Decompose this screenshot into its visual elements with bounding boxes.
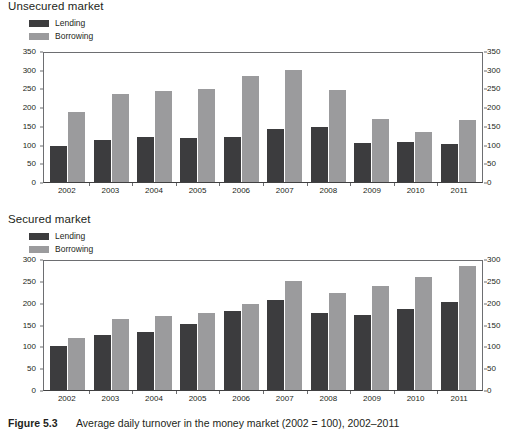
y-tick-label-right-300: 300 bbox=[487, 67, 507, 75]
bar-lending-2011 bbox=[441, 144, 458, 182]
bar-borrowing-2002 bbox=[68, 338, 85, 390]
legend-label-lending: Lending bbox=[55, 19, 85, 28]
x-tick-mark bbox=[176, 183, 177, 186]
y-tick-label-left-350: 350 bbox=[2, 48, 36, 56]
legend-label-borrowing: Borrowing bbox=[55, 245, 93, 254]
x-tick-mark bbox=[350, 391, 351, 394]
x-tick-label-2004: 2004 bbox=[132, 186, 176, 196]
bar-borrowing-2011 bbox=[459, 266, 476, 390]
x-tick-label-2011: 2011 bbox=[437, 394, 481, 404]
legend-unsecured: Lending Borrowing bbox=[29, 18, 93, 44]
y-tick-mark bbox=[40, 108, 43, 109]
x-tick-label-2011: 2011 bbox=[437, 186, 481, 196]
y-tick-mark bbox=[484, 70, 487, 71]
y-tick-label-right-150: 150 bbox=[487, 322, 507, 330]
y-tick-mark bbox=[484, 145, 487, 146]
x-tick-mark bbox=[219, 183, 220, 186]
y-tick-mark bbox=[40, 89, 43, 90]
x-axis-secured: 2002200320042005200620072008200920102011 bbox=[43, 394, 483, 404]
y-axis-left-secured: 050100150200250300 bbox=[2, 260, 36, 391]
plot-area-unsecured bbox=[43, 52, 483, 183]
y-tick-label-left-0: 0 bbox=[2, 387, 36, 395]
bar-lending-2008 bbox=[311, 313, 328, 390]
bar-group-2011 bbox=[437, 261, 480, 390]
y-tick-label-left-150: 150 bbox=[2, 322, 36, 330]
y-tick-mark bbox=[40, 303, 43, 304]
bar-group-2008 bbox=[306, 261, 349, 390]
y-tick-mark bbox=[40, 164, 43, 165]
y-tick-label-right-150: 150 bbox=[487, 123, 507, 131]
x-tick-mark bbox=[89, 391, 90, 394]
y-tick-label-right-100: 100 bbox=[487, 142, 507, 150]
figure-caption-text: Average daily turnover in the money mark… bbox=[76, 417, 399, 430]
y-tick-mark bbox=[484, 126, 487, 127]
x-tick-mark bbox=[394, 391, 395, 394]
y-tick-mark bbox=[484, 369, 487, 370]
bar-lending-2005 bbox=[180, 324, 197, 390]
bar-lending-2010 bbox=[397, 142, 414, 182]
x-tick-label-2002: 2002 bbox=[45, 394, 89, 404]
bar-group-2009 bbox=[350, 53, 393, 182]
y-tick-mark bbox=[40, 126, 43, 127]
bar-group-2005 bbox=[176, 53, 219, 182]
bar-group-2004 bbox=[133, 261, 176, 390]
y-tick-mark bbox=[40, 52, 43, 53]
y-tick-label-left-300: 300 bbox=[2, 67, 36, 75]
bar-borrowing-2007 bbox=[285, 70, 302, 182]
y-tick-label-right-350: 350 bbox=[487, 48, 507, 56]
bar-group-2007 bbox=[263, 261, 306, 390]
bar-group-2003 bbox=[89, 53, 132, 182]
panel-title-secured: Secured market bbox=[8, 213, 91, 225]
x-tick-label-2003: 2003 bbox=[89, 186, 133, 196]
bar-lending-2010 bbox=[397, 309, 414, 390]
bar-lending-2006 bbox=[224, 137, 241, 182]
x-tick-label-2007: 2007 bbox=[263, 394, 307, 404]
legend-swatch-borrowing bbox=[29, 246, 49, 253]
bar-lending-2006 bbox=[224, 311, 241, 390]
x-tick-label-2009: 2009 bbox=[350, 186, 394, 196]
y-tick-label-left-150: 150 bbox=[2, 123, 36, 131]
bar-lending-2002 bbox=[50, 346, 67, 390]
bar-group-2006 bbox=[220, 261, 263, 390]
y-tick-label-left-200: 200 bbox=[2, 300, 36, 308]
x-tick-mark bbox=[176, 391, 177, 394]
x-tick-mark bbox=[437, 183, 438, 186]
x-tick-mark bbox=[219, 391, 220, 394]
y-tick-mark bbox=[484, 89, 487, 90]
y-tick-label-right-250: 250 bbox=[487, 278, 507, 286]
x-tick-label-2003: 2003 bbox=[89, 394, 133, 404]
y-tick-mark bbox=[40, 183, 43, 184]
y-tick-mark bbox=[484, 164, 487, 165]
y-tick-label-right-100: 100 bbox=[487, 343, 507, 351]
bar-group-2004 bbox=[133, 53, 176, 182]
y-tick-label-right-0: 0 bbox=[487, 179, 507, 187]
y-tick-mark bbox=[40, 369, 43, 370]
legend-item-borrowing: Borrowing bbox=[29, 31, 93, 42]
figure-number: Figure 5.3 bbox=[8, 417, 76, 430]
y-tick-mark bbox=[484, 281, 487, 282]
bar-borrowing-2009 bbox=[372, 119, 389, 182]
x-tick-label-2008: 2008 bbox=[307, 186, 351, 196]
y-tick-mark bbox=[484, 108, 487, 109]
bar-lending-2002 bbox=[50, 146, 67, 182]
bar-lending-2009 bbox=[354, 315, 371, 390]
x-tick-mark bbox=[307, 183, 308, 186]
x-tick-label-2007: 2007 bbox=[263, 186, 307, 196]
y-tick-mark bbox=[40, 281, 43, 282]
x-tick-label-2005: 2005 bbox=[176, 394, 220, 404]
legend-label-lending: Lending bbox=[55, 232, 85, 241]
x-tick-label-2006: 2006 bbox=[219, 186, 263, 196]
panel-title-unsecured: Unsecured market bbox=[8, 0, 104, 12]
bar-group-2009 bbox=[350, 261, 393, 390]
y-tick-label-left-50: 50 bbox=[2, 365, 36, 373]
bar-borrowing-2008 bbox=[329, 90, 346, 182]
legend-label-borrowing: Borrowing bbox=[55, 32, 93, 41]
y-tick-mark bbox=[40, 391, 43, 392]
y-tick-label-left-100: 100 bbox=[2, 142, 36, 150]
y-tick-mark bbox=[40, 347, 43, 348]
y-tick-label-left-300: 300 bbox=[2, 256, 36, 264]
bar-borrowing-2007 bbox=[285, 281, 302, 390]
x-tick-label-2005: 2005 bbox=[176, 186, 220, 196]
legend-swatch-lending bbox=[29, 20, 49, 27]
bar-borrowing-2005 bbox=[198, 313, 215, 390]
